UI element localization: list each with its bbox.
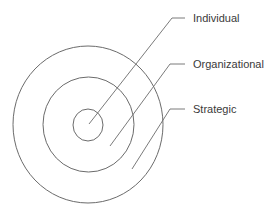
outer-ring-strategic — [13, 46, 163, 203]
leader-line-strategic — [132, 109, 185, 169]
inner-ring-individual — [73, 109, 103, 141]
label-individual: Individual — [193, 12, 239, 24]
label-organizational: Organizational — [193, 58, 264, 70]
middle-ring-organizational — [43, 77, 134, 172]
leader-line-individual — [89, 18, 185, 124]
label-strategic: Strategic — [193, 103, 236, 115]
